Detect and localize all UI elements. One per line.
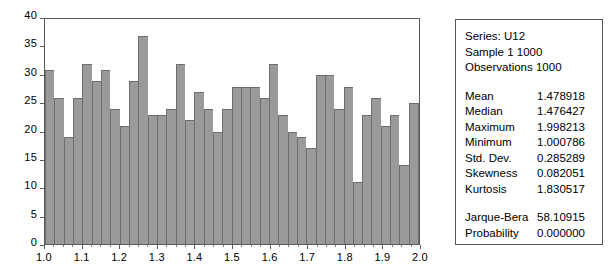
statistic-value: 1.830517 [537, 182, 585, 198]
histogram-bar [409, 103, 419, 244]
histogram-bar [92, 81, 101, 244]
x-minor-tick [176, 245, 177, 247]
histogram-bar [110, 109, 119, 244]
statistic-value: 58.10915 [537, 210, 585, 226]
x-tick-mark [119, 245, 120, 249]
statistics-header-line: Series: U12 [465, 29, 602, 45]
statistic-row: Kurtosis1.830517 [465, 182, 602, 198]
x-tick-label: 1.4 [186, 251, 202, 263]
x-axis: 1.01.11.21.31.41.51.61.71.81.92.0 [44, 245, 420, 275]
x-minor-tick [223, 245, 224, 247]
x-minor-tick [147, 245, 148, 247]
statistic-label: Jarque-Bera [465, 210, 537, 226]
x-minor-tick [260, 245, 261, 247]
statistic-label: Median [465, 104, 537, 120]
y-tick-label: 25 [24, 95, 37, 106]
x-tick-label: 1.2 [111, 251, 127, 263]
x-tick-mark [157, 245, 158, 249]
histogram-bar [269, 64, 278, 244]
statistic-row: Median1.476427 [465, 104, 602, 120]
histogram-bar [353, 182, 362, 244]
x-tick-mark [270, 245, 271, 249]
statistic-value: 1.998213 [537, 120, 585, 136]
statistic-label: Kurtosis [465, 182, 537, 198]
x-minor-tick [213, 245, 214, 247]
histogram-bar [157, 115, 166, 244]
x-minor-tick [241, 245, 242, 247]
histogram-bar [45, 70, 54, 244]
histogram-bar [371, 98, 380, 244]
x-tick-label: 1.1 [74, 251, 90, 263]
x-minor-tick [251, 245, 252, 247]
statistic-label: Mean [465, 89, 537, 105]
x-minor-tick [204, 245, 205, 247]
x-minor-tick [91, 245, 92, 247]
x-minor-tick [129, 245, 130, 247]
x-minor-tick [326, 245, 327, 247]
statistic-label: Skewness [465, 166, 537, 182]
histogram-bar [176, 64, 185, 244]
x-tick-label: 1.7 [299, 251, 315, 263]
x-minor-tick [373, 245, 374, 247]
x-tick-mark [382, 245, 383, 249]
x-tick-label: 1.6 [262, 251, 278, 263]
histogram-bar [278, 115, 287, 244]
x-minor-tick [392, 245, 393, 247]
histogram-bar [120, 126, 129, 244]
histogram-bar [362, 115, 371, 244]
statistic-test-row: Jarque-Bera58.10915 [465, 210, 602, 226]
histogram-bar [148, 115, 157, 244]
x-tick-label: 2.0 [412, 251, 428, 263]
x-tick-mark [44, 245, 45, 249]
histogram-bar [222, 109, 231, 244]
x-minor-tick [401, 245, 402, 247]
x-minor-tick [288, 245, 289, 247]
histogram-bar [73, 98, 82, 244]
x-minor-tick [317, 245, 318, 247]
y-axis: 0510152025303540 [0, 18, 44, 245]
histogram-statistics-figure: 0510152025303540 1.01.11.21.31.41.51.61.… [0, 0, 615, 280]
histogram-bar [334, 109, 343, 244]
histogram-bar [101, 70, 110, 244]
statistic-row: Mean1.478918 [465, 89, 602, 105]
y-tick-label: 20 [24, 124, 37, 135]
x-minor-tick [53, 245, 54, 247]
x-tick-mark [232, 245, 233, 249]
statistic-value: 1.478918 [537, 89, 585, 105]
x-tick-mark [345, 245, 346, 249]
statistic-row: Minimum1.000786 [465, 135, 602, 151]
y-tick-label: 10 [24, 180, 37, 191]
statistics-header: Series: U12Sample 1 1000Observations 100… [465, 29, 602, 76]
statistic-label: Probability [465, 226, 537, 242]
histogram-bar [399, 165, 408, 244]
x-tick-label: 1.0 [36, 251, 52, 263]
x-tick-label: 1.8 [337, 251, 353, 263]
statistic-test-row: Probability0.000000 [465, 226, 602, 242]
histogram-bar [260, 98, 269, 244]
histogram-bar [390, 115, 399, 244]
y-tick-label: 0 [31, 237, 37, 248]
x-minor-tick [354, 245, 355, 247]
statistics-rows: Mean1.478918Median1.476427Maximum1.99821… [465, 89, 602, 198]
statistic-row: Std. Dev.0.285289 [465, 151, 602, 167]
histogram-bar [288, 132, 297, 245]
histogram-bar [250, 87, 259, 245]
x-minor-tick [72, 245, 73, 247]
x-tick-mark [307, 245, 308, 249]
x-minor-tick [110, 245, 111, 247]
x-tick-mark [194, 245, 195, 249]
histogram-bar [129, 81, 138, 244]
x-minor-tick [100, 245, 101, 247]
statistic-label: Std. Dev. [465, 151, 537, 167]
histogram-bar [82, 64, 91, 244]
histogram-bar [241, 87, 250, 245]
x-minor-tick [138, 245, 139, 247]
statistics-panel: Series: U12Sample 1 1000Observations 100… [455, 19, 603, 245]
y-tick-label: 35 [24, 38, 37, 49]
x-minor-tick [166, 245, 167, 247]
x-tick-mark [82, 245, 83, 249]
histogram-bar [194, 92, 203, 244]
statistics-test-rows: Jarque-Bera58.10915Probability0.000000 [465, 210, 602, 241]
y-tick-label: 5 [31, 209, 37, 220]
statistic-label: Maximum [465, 120, 537, 136]
